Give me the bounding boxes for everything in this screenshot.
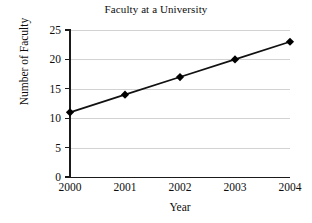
y-axis-tick-mark — [65, 59, 69, 60]
x-axis-tick-label: 2004 — [268, 181, 312, 194]
y-axis-tick-mark — [65, 176, 69, 177]
data-point-marker — [231, 55, 239, 63]
x-axis-tick-label: 2000 — [48, 181, 92, 194]
y-axis-tick-label: 5 — [31, 142, 61, 154]
y-axis-tick-label: 20 — [31, 53, 61, 65]
data-point-marker — [121, 91, 129, 99]
data-point-marker — [286, 38, 294, 46]
y-axis-tick-label: 10 — [31, 112, 61, 124]
data-point-marker — [176, 73, 184, 81]
data-point-marker — [66, 108, 74, 116]
x-axis-title: Year — [70, 200, 290, 214]
chart-figure: Faculty at a University Number of Facult… — [0, 0, 312, 223]
y-axis-tick-mark — [65, 147, 69, 148]
x-axis-tick-label: 2001 — [103, 181, 147, 194]
y-axis-tick-mark — [65, 88, 69, 89]
y-axis-tick-label: 25 — [31, 24, 61, 36]
x-axis-tick-label: 2002 — [158, 181, 202, 194]
y-axis-tick-label: 15 — [31, 83, 61, 95]
x-axis-tick-label: 2003 — [213, 181, 257, 194]
y-axis-tick-mark — [65, 29, 69, 30]
y-axis-tick-mark — [65, 118, 69, 119]
